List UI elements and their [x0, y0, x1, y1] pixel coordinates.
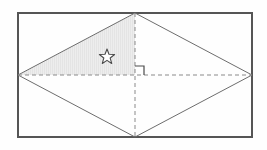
- geometry-figure: [0, 0, 267, 150]
- figure-canvas: [0, 0, 267, 150]
